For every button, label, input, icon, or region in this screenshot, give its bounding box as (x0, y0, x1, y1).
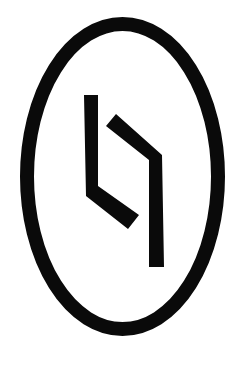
logo-emblem (0, 0, 241, 368)
background (0, 0, 241, 368)
logo-svg (0, 0, 241, 368)
